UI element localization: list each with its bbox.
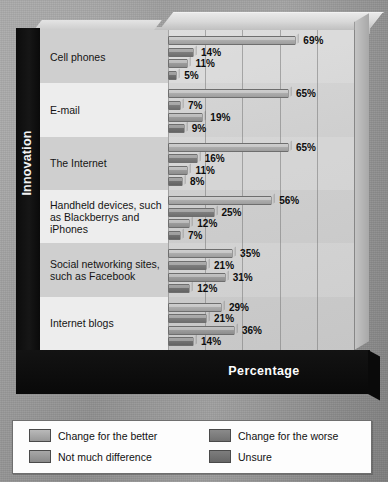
legend-swatch [29, 450, 51, 463]
category-label: Social networking sites,such as Facebook [50, 258, 160, 282]
legend-item-3[interactable]: Unsure [209, 450, 272, 463]
gridline-100 [354, 30, 355, 350]
legend-item-0[interactable]: Change for the better [29, 429, 157, 442]
bar-0-4 [168, 249, 233, 258]
bar-1-2 [168, 154, 198, 163]
x-axis-title: Percentage [158, 364, 370, 378]
category-band: Internet blogs [40, 297, 168, 350]
bar-cap [225, 270, 229, 281]
legend-label: Change for the worse [238, 430, 338, 442]
bar-value-label: 16% [205, 153, 225, 164]
bar-value-label: 29% [229, 302, 249, 313]
legend-label: Change for the better [58, 430, 157, 442]
category-band: E-mail [40, 83, 168, 136]
bar-3-1 [168, 124, 185, 133]
bar-0-3 [168, 196, 272, 205]
bar-value-label: 31% [233, 272, 253, 283]
bar-3-4 [168, 284, 190, 293]
bar-value-label: 36% [242, 325, 262, 336]
bar-3-2 [168, 177, 183, 186]
gridline-80 [317, 30, 318, 350]
bar-value-label: 19% [210, 112, 230, 123]
bar-value-label: 14% [201, 336, 221, 347]
y-axis-strip: Innovation [16, 28, 40, 350]
category-label: Handheld devices, suchas Blackberrys and… [50, 199, 162, 235]
bar-value-label: 21% [214, 313, 234, 324]
bar-value-label: 7% [188, 100, 202, 111]
bar-value-label: 5% [184, 70, 198, 81]
bar-value-label: 11% [195, 58, 214, 69]
bar-cap [214, 205, 218, 216]
bar-2-4 [168, 273, 226, 282]
bar-chart-figure: Innovation Cell phonesE-mailThe Internet… [8, 4, 380, 404]
bar-value-label: 21% [214, 260, 234, 271]
bar-value-label: 25% [222, 207, 242, 218]
bar-2-3 [168, 219, 190, 228]
category-label: Internet blogs [50, 317, 114, 329]
legend-item-1[interactable]: Change for the worse [209, 429, 338, 442]
bar-3-5 [168, 337, 194, 346]
bar-value-label: 14% [201, 47, 221, 58]
category-band: Social networking sites,such as Facebook [40, 243, 168, 296]
bar-value-label: 12% [197, 283, 217, 294]
bar-1-0 [168, 48, 194, 57]
bar-2-5 [168, 326, 235, 335]
y-axis-title: Innovation [20, 108, 34, 218]
bar-cap [288, 140, 292, 151]
label-panel-top-slab [34, 20, 162, 30]
legend-swatch [29, 429, 51, 442]
category-label: The Internet [50, 157, 107, 169]
chart-legend: Change for the betterChange for the wors… [12, 420, 372, 474]
bar-1-3 [168, 208, 215, 217]
bar-value-label: 9% [192, 123, 206, 134]
category-label: Cell phones [50, 51, 105, 63]
legend-swatch [209, 450, 231, 463]
bar-0-1 [168, 89, 289, 98]
bar-2-1 [168, 113, 203, 122]
bar-0-2 [168, 143, 289, 152]
bar-value-label: 56% [279, 195, 299, 206]
category-label-panel: Cell phonesE-mailThe InternetHandheld de… [40, 30, 169, 350]
legend-label: Not much difference [58, 451, 152, 463]
legend-label: Unsure [238, 451, 272, 463]
bar-value-label: 65% [296, 88, 316, 99]
category-label: E-mail [50, 104, 80, 116]
gridline-60 [280, 30, 281, 350]
category-band: Cell phones [40, 30, 168, 83]
bar-0-5 [168, 303, 222, 312]
legend-item-2[interactable]: Not much difference [29, 450, 152, 463]
bar-value-label: 8% [190, 176, 204, 187]
bar-1-4 [168, 261, 207, 270]
bar-value-label: 65% [296, 142, 316, 153]
bar-0-0 [168, 36, 296, 45]
bar-value-label: 7% [188, 230, 202, 241]
bar-cap [193, 45, 197, 56]
bar-value-label: 35% [240, 248, 260, 259]
chart-right-wall [354, 13, 369, 350]
bar-value-label: 12% [197, 218, 217, 229]
category-band: The Internet [40, 137, 168, 190]
legend-swatch [209, 429, 231, 442]
bar-2-0 [168, 59, 188, 68]
bar-1-5 [168, 314, 207, 323]
category-band: Handheld devices, suchas Blackberrys and… [40, 190, 168, 243]
bar-value-label: 11% [195, 165, 214, 176]
bar-value-label: 69% [303, 35, 323, 46]
plot-area: 69%14%11%5%65%7%19%9%65%16%11%8%56%25%12… [168, 30, 354, 350]
